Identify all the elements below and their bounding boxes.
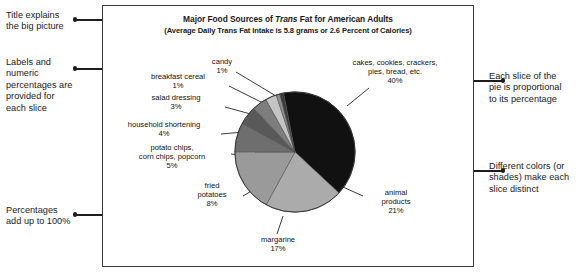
slice-label-breakfast-cereal: breakfast cereal 1% (129, 73, 227, 91)
slice-label-animal-products: animal products 21% (365, 189, 427, 215)
annotation-labels-line-5: each slice (6, 103, 98, 114)
chart-subtitle-part-2: Fat Intake is 5.8 grams or 2.6 Percent o… (237, 26, 412, 35)
slice-label-breakfast-cereal-percent: 1% (129, 82, 227, 91)
chart-title-italic: Trans (275, 14, 297, 24)
slice-label-margarine-percent: 17% (243, 245, 313, 254)
annotation-colors-line-1: Different colors (or (489, 161, 587, 172)
slice-label-household-shortening-percent: 4% (108, 130, 220, 139)
annotation-title-line-2: the big picture (6, 21, 94, 32)
annotation-proportional-line-1: Each slice of the (489, 71, 585, 82)
slice-label-cakes-cookies: cakes, cookies, crackers, pies, bread, e… (325, 59, 465, 85)
pie-graphic (233, 90, 357, 214)
chart-subtitle-italic: Trans (217, 26, 237, 35)
annotation-labels-line-4: provided for (6, 91, 98, 102)
pie-slice-group (235, 92, 355, 212)
slice-label-cakes-cookies-percent: 40% (325, 77, 465, 86)
slice-label-potato-chips: potato chips, corn chips, popcorn 5% (115, 144, 229, 170)
chart-subtitle-part-1: (Average Daily (164, 26, 217, 35)
annotation-proportional-line-3: to its percentage (489, 94, 585, 105)
slice-label-fried-potatoes: fried potatoes 8% (181, 182, 243, 208)
pie-chart-figure: Major Food Sources of Trans Fat for Amer… (102, 5, 474, 267)
slice-label-animal-products-percent: 21% (365, 207, 427, 216)
annotation-labels-line-3: percentages are (6, 80, 98, 91)
chart-subtitle: (Average Daily Trans Fat Intake is 5.8 g… (103, 26, 473, 35)
slice-label-salad-dressing: salad dressing 3% (129, 94, 223, 112)
chart-title: Major Food Sources of Trans Fat for Amer… (103, 14, 473, 26)
slice-label-potato-chips-percent: 5% (115, 162, 229, 171)
annotation-percent-line-2: add up to 100% (6, 216, 101, 227)
annotation-colors-line-3: slice distinct (489, 184, 587, 195)
annotation-proportional-line-2: pie is proportional (489, 82, 585, 93)
annotation-colors-line-2: shades) make each (489, 172, 587, 183)
slice-label-salad-dressing-percent: 3% (129, 103, 223, 112)
slice-label-household-shortening: household shortening 4% (108, 121, 220, 139)
annotation-slice-proportional: Each slice of the pie is proportional to… (489, 71, 585, 105)
annotation-colors-distinct: Different colors (or shades) make each s… (489, 161, 587, 195)
chart-title-part-2: Fat for American Adults (297, 14, 392, 24)
slice-label-fried-potatoes-percent: 8% (181, 200, 243, 209)
pie-svg (233, 90, 357, 214)
chart-title-part-1: Major Food Sources of (183, 14, 275, 24)
slice-label-margarine: margarine 17% (243, 236, 313, 254)
